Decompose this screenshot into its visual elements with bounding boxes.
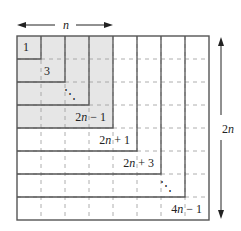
- odd-sum-diagram: n 2n 13⋱2n − 12n + 12n + 3⋱4n − 1: [0, 0, 241, 231]
- top-dimension-label: n: [63, 18, 69, 32]
- right-dimension: 2n: [218, 37, 234, 219]
- l-shape-label: 4n − 1: [171, 202, 202, 216]
- l-shape-label: 2n + 3: [123, 156, 154, 170]
- top-dimension: n: [17, 18, 113, 32]
- l-shape-label: 1: [23, 40, 29, 54]
- l-shape-label: 2n + 1: [99, 133, 130, 147]
- l-shape-label: 2n − 1: [75, 110, 106, 124]
- right-dimension-label: 2n: [222, 122, 234, 136]
- arrow-left-icon: [17, 22, 26, 28]
- l-shape-label: ⋱: [64, 87, 76, 101]
- l-shape-label: ⋱: [160, 179, 172, 193]
- l-shape-label: 3: [44, 64, 50, 78]
- arrow-up-icon: [218, 37, 224, 46]
- arrow-right-icon: [104, 22, 113, 28]
- arrow-down-icon: [218, 210, 224, 219]
